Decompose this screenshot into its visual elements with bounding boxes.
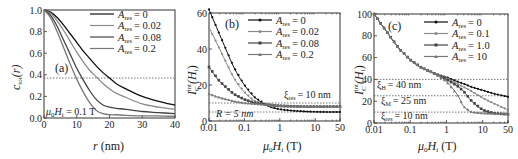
legend-label: Ares= 0.2 [117, 43, 156, 55]
y-tick-label: 0.6 [30, 48, 43, 59]
y-tick-label: 0 [367, 118, 372, 129]
legend: Ares= 0Ares= 0.1Ares= 1.0Ares= 10 [424, 17, 490, 64]
legend-label: Ares= 0.02 [117, 20, 161, 32]
x-tick-label: 50 [503, 124, 513, 135]
x-tick-label: 20 [105, 119, 115, 130]
x-tick-label: 10 [478, 124, 488, 135]
panel-b-ylabel: ICint(Hi) [185, 65, 201, 96]
legend-label: Ares= 0.08 [275, 38, 319, 50]
panel-b-radius-note: R = 5 nm [215, 108, 254, 119]
y-tick-label: 60 [362, 52, 372, 63]
x-tick-label: 10 [310, 122, 320, 133]
legend-label: Ares= 0.2 [275, 49, 314, 61]
legend-label: Ares= 0 [451, 17, 482, 29]
panel-c-xlabel: μ0Hi (T) [417, 139, 456, 154]
y-tick-label: 20 [362, 96, 372, 107]
panel-c-xi-res-note: ξres= 10 nm [381, 110, 428, 122]
x-tick-label: 1 [444, 124, 449, 135]
legend: Ares= 0Ares= 0.02Ares= 0.08Ares= 0.2 [90, 9, 161, 56]
y-tick-label: 0.0 [30, 113, 43, 124]
y-tick-label: 0.8 [30, 26, 43, 37]
x-tick-label: 10 [72, 119, 82, 130]
x-tick-label: 0.1 [404, 124, 417, 135]
legend: Ares= 0Ares= 0.02Ares= 0.08Ares= 0.2 [248, 15, 319, 62]
y-tick-label: 100 [357, 9, 372, 20]
x-tick-label: 40 [170, 119, 180, 130]
panel-c-label: (c) [388, 19, 401, 33]
y-tick-label: 0 [202, 116, 207, 127]
y-tick-label: 1.0 [30, 5, 43, 16]
legend-label: Ares= 0.02 [275, 26, 319, 38]
x-tick-label: 30 [137, 119, 147, 130]
legend-label: Ares= 0.1 [451, 28, 490, 40]
panel-a-annotation: μ0Hi = 0.1 T [45, 106, 95, 119]
panel-c-ylabel: ICint(Hi) [352, 65, 368, 96]
y-tick-label: 0.4 [30, 69, 43, 80]
panel-a-xlabel: r (nm) [93, 139, 124, 153]
panel-b-xi-res-note: ξres= 10 nm [284, 89, 331, 101]
y-tick-label: 40 [197, 44, 207, 55]
panel-c-xi-h-note: ξH= 40 nm [377, 79, 421, 91]
legend-label: Ares= 0 [275, 15, 306, 27]
figure: 0102030400.00.20.40.60.81.0Ares= 0Ares= … [0, 0, 518, 159]
legend-label: Ares= 1.0 [451, 40, 490, 52]
legend-label: Ares= 10 [451, 51, 487, 63]
panel-c-xi-m-note: ξM= 25 nm [381, 95, 426, 107]
panel-a-ylabel: ctot(r) [9, 65, 24, 90]
panel-b-label: (b) [225, 17, 239, 31]
y-tick-label: 60 [197, 8, 207, 19]
legend-label: Ares= 0.08 [117, 32, 161, 44]
panel-b-xlabel: μ0Hi (T) [262, 139, 301, 154]
y-tick-label: 80 [362, 30, 372, 41]
x-tick-label: 1 [277, 122, 282, 133]
y-tick-label: 0.2 [30, 91, 43, 102]
x-tick-label: 50 [335, 122, 345, 133]
panel-a-label: (a) [55, 61, 68, 75]
x-tick-label: 0.1 [238, 122, 251, 133]
x-tick-label: 0 [42, 119, 47, 130]
